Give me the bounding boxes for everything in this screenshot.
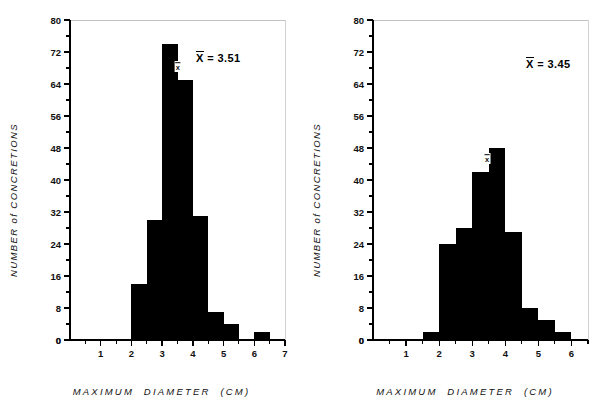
y-tick-label: 48 <box>353 143 364 154</box>
x-tick-label: 5 <box>221 348 227 359</box>
y-tick-label: 64 <box>353 79 364 90</box>
y-tick-label: 24 <box>353 239 364 250</box>
x-tick-label: 7 <box>282 348 287 359</box>
mean-symbol: X <box>196 52 204 64</box>
x-tick-label: 6 <box>252 348 257 359</box>
y-tick-label: 56 <box>353 111 364 122</box>
y-tick-label: 32 <box>353 207 364 218</box>
y-tick-label: 72 <box>50 47 61 58</box>
y-tick-label: 16 <box>50 271 61 282</box>
y-tick-label: 32 <box>50 207 61 218</box>
two-histogram-figure: NUMBER of CONCRETIONS 081624324048566472… <box>0 0 607 409</box>
y-tick-label: 48 <box>50 143 61 154</box>
histogram-bar <box>423 332 440 340</box>
histogram-bar <box>162 44 177 340</box>
y-tick-label: 80 <box>353 15 364 26</box>
left-x-axis-title: MAXIMUM DIAMETER (CM) <box>30 386 293 397</box>
right-histogram-panel: NUMBER of CONCRETIONS 081624324048566472… <box>303 0 607 409</box>
left-y-axis-title: NUMBER of CONCRETIONS <box>2 60 24 340</box>
x-tick-label: 6 <box>569 348 574 359</box>
histogram-bar <box>193 216 208 340</box>
y-tick-label: 40 <box>353 175 364 186</box>
right-x-axis-title: MAXIMUM DIAMETER (CM) <box>333 386 597 397</box>
x-tick-label: 5 <box>536 348 542 359</box>
y-tick-label: 80 <box>50 15 61 26</box>
x-tick-label: 4 <box>190 348 196 359</box>
y-tick-label: 56 <box>50 111 61 122</box>
left-histogram-panel: NUMBER of CONCRETIONS 081624324048566472… <box>0 0 303 409</box>
left-plot-area: 0816243240485664728001234567x <box>44 14 295 368</box>
x-tick-label: 2 <box>437 348 442 359</box>
histogram-bar <box>538 320 555 340</box>
histogram-bar <box>131 284 146 340</box>
y-tick-label: 72 <box>353 47 364 58</box>
histogram-bar <box>456 228 473 340</box>
y-tick-label: 24 <box>50 239 61 250</box>
histogram-bar <box>254 332 269 340</box>
histogram-bar <box>208 312 223 340</box>
mean-value-text: = 3.45 <box>534 58 571 70</box>
histogram-bar <box>555 332 572 340</box>
histogram-bar <box>472 172 489 340</box>
histogram-bar <box>489 148 506 340</box>
x-tick-label: 1 <box>98 348 104 359</box>
mean-symbol: X <box>526 58 534 70</box>
y-tick-label: 40 <box>50 175 61 186</box>
bar-group <box>131 44 269 340</box>
x-tick-label: 4 <box>503 348 509 359</box>
y-tick-label: 64 <box>50 79 61 90</box>
histogram-bar <box>522 308 539 340</box>
histogram-bar <box>439 244 456 340</box>
histogram-bar <box>178 80 193 340</box>
histogram-bar <box>147 220 162 340</box>
histogram-bar <box>224 324 239 340</box>
y-tick-label: 8 <box>56 303 61 314</box>
histogram-bar <box>505 232 522 340</box>
y-tick-label: 16 <box>353 271 364 282</box>
mean-value-text: = 3.51 <box>204 52 241 64</box>
x-tick-label: 3 <box>470 348 475 359</box>
x-tick-label: 2 <box>129 348 134 359</box>
right-y-axis-title: NUMBER of CONCRETIONS <box>305 60 327 340</box>
bar-group <box>423 148 572 340</box>
left-mean-annotation: X = 3.51 <box>196 52 241 64</box>
x-tick-label: 0 <box>56 335 61 346</box>
y-tick-label: 8 <box>359 303 364 314</box>
x-tick-label: 3 <box>159 348 164 359</box>
right-mean-annotation: X = 3.45 <box>526 58 571 70</box>
x-tick-label: 1 <box>403 348 409 359</box>
histogram-svg: 0816243240485664728001234567x <box>44 14 295 368</box>
x-tick-label: 0 <box>359 335 364 346</box>
